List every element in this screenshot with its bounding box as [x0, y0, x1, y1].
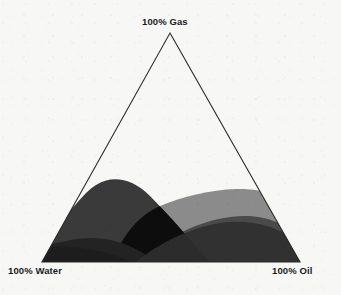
- ternary-plot-canvas: [0, 0, 341, 295]
- vertex-label-water: 100% Water: [8, 265, 62, 276]
- ternary-diagram-figure: 100% Gas 100% Water 100% Oil: [0, 0, 341, 295]
- vertex-label-oil: 100% Oil: [272, 265, 312, 276]
- vertex-label-gas: 100% Gas: [142, 16, 188, 27]
